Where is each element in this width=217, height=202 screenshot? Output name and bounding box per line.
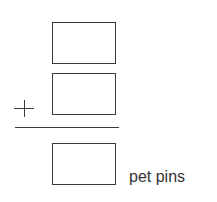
sum-box[interactable]	[52, 143, 116, 185]
unit-label: pet pins	[129, 168, 185, 186]
sum-divider-line	[15, 127, 119, 128]
addend-1-box[interactable]	[52, 22, 116, 64]
addend-2-box[interactable]	[52, 73, 116, 115]
plus-sign-icon	[14, 100, 34, 117]
